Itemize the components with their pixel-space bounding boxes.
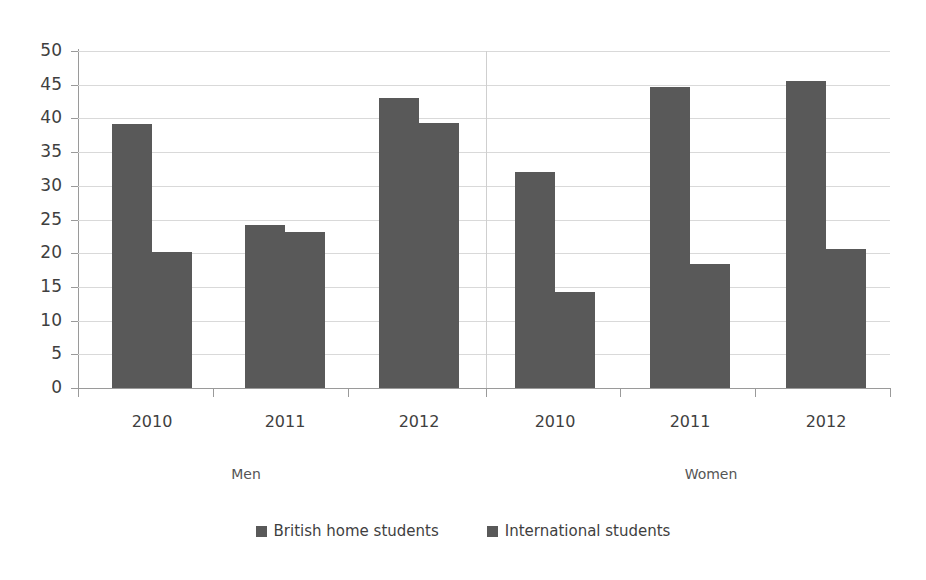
- legend-label: International students: [505, 522, 671, 540]
- legend-label: British home students: [274, 522, 439, 540]
- x-axis-category-label: 2010: [92, 412, 212, 431]
- gridline: [78, 118, 890, 119]
- bar: [690, 264, 730, 388]
- group-label: Men: [166, 466, 326, 482]
- bar: [379, 98, 419, 388]
- gridline: [78, 220, 890, 221]
- gridline: [78, 85, 890, 86]
- y-axis-tick-label: 5: [18, 345, 62, 362]
- x-axis-tick: [620, 388, 621, 397]
- x-axis-category-label: 2011: [630, 412, 750, 431]
- group-separator-line: [486, 51, 487, 388]
- y-axis-tick-label: 40: [18, 109, 62, 126]
- x-axis-line: [78, 388, 891, 389]
- gridline: [78, 51, 890, 52]
- bar: [152, 252, 192, 388]
- legend-swatch-icon: [256, 526, 267, 537]
- legend-item-international-students[interactable]: International students: [487, 522, 671, 540]
- gridline: [78, 321, 890, 322]
- gridline: [78, 354, 890, 355]
- gridline: [78, 287, 890, 288]
- y-axis-tick-label: 35: [18, 143, 62, 160]
- x-axis-tick: [78, 388, 79, 397]
- group-label: Women: [631, 466, 791, 482]
- bar: [515, 172, 555, 388]
- x-axis-tick: [755, 388, 756, 397]
- x-axis-tick: [213, 388, 214, 397]
- y-axis-tick-label: 30: [18, 177, 62, 194]
- y-axis-tick-label: 20: [18, 244, 62, 261]
- y-axis-tick-label: 0: [18, 379, 62, 396]
- y-axis-tick-label: 15: [18, 278, 62, 295]
- bar: [650, 87, 690, 388]
- x-axis-tick: [890, 388, 891, 397]
- gridline: [78, 152, 890, 153]
- y-axis-tick-label: 10: [18, 312, 62, 329]
- legend-item-british-home-students[interactable]: British home students: [256, 522, 439, 540]
- y-axis-tick-label: 45: [18, 76, 62, 93]
- plot-area: [78, 51, 890, 388]
- legend-swatch-icon: [487, 526, 498, 537]
- x-axis-category-label: 2011: [225, 412, 345, 431]
- bar: [419, 123, 459, 388]
- x-axis-tick: [486, 388, 487, 397]
- x-axis-category-label: 2010: [495, 412, 615, 431]
- bar: [112, 124, 152, 388]
- bar: [826, 249, 866, 388]
- y-axis-tick-label: 50: [18, 42, 62, 59]
- chart-page: 50454035302520151050 2010201120122010201…: [0, 0, 926, 580]
- bar: [285, 232, 325, 388]
- bar: [245, 225, 285, 388]
- gridline: [78, 253, 890, 254]
- y-axis-tick-label: 25: [18, 211, 62, 228]
- bar: [555, 292, 595, 388]
- x-axis-tick: [348, 388, 349, 397]
- gridline: [78, 186, 890, 187]
- chart-legend: British home students International stud…: [0, 522, 926, 540]
- bar: [786, 81, 826, 388]
- x-axis-category-label: 2012: [766, 412, 886, 431]
- x-axis-category-label: 2012: [359, 412, 479, 431]
